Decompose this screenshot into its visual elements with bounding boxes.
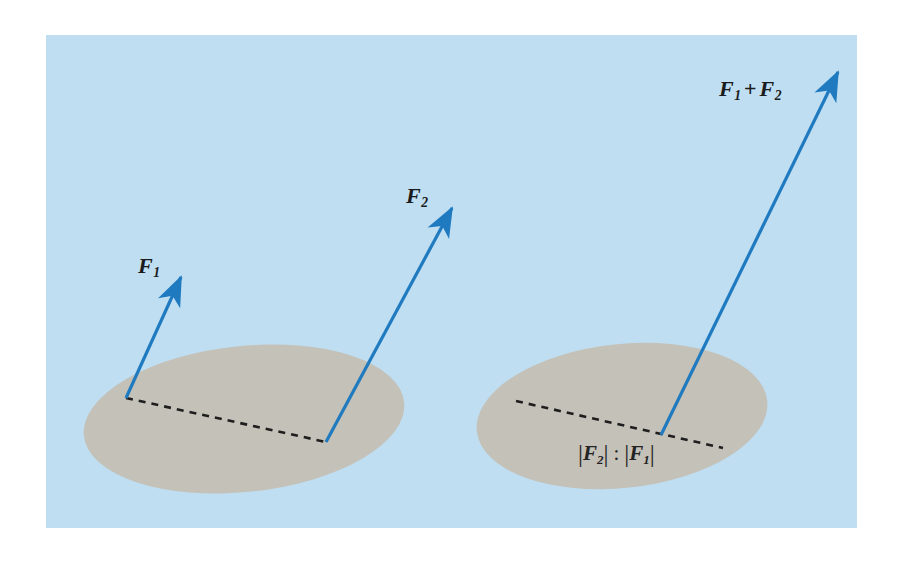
label-force-ratio: |F2|:|F1| [578,442,655,467]
label-sum-first-symbol: F [719,76,734,101]
left-rigid-body [76,330,411,509]
label-force-f2: F2 [406,185,428,210]
ratio-numerator-symbol: F [583,441,597,465]
ratio-denominator-symbol: F [629,441,643,465]
label-f1-subscript: 1 [153,265,160,280]
label-f1-symbol: F [138,253,153,278]
label-sum-operator: + [744,76,757,101]
label-sum-second-subscript: 2 [775,88,782,103]
ratio-separator: : [613,441,619,465]
label-resultant-force: F1+F2 [719,78,782,103]
ratio-close-bar-2: | [650,440,655,467]
right-rigid-body [469,329,774,503]
label-sum-second-symbol: F [760,76,775,101]
label-sum-first-subscript: 1 [734,88,741,103]
physics-figure: F1 F2 F1+F2 |F2|:|F1| [0,0,903,563]
label-f2-symbol: F [406,183,421,208]
ratio-close-bar-1: | [604,440,609,467]
label-force-f1: F1 [138,255,160,280]
left-body-shape [76,330,411,509]
right-body-shape [469,329,774,503]
label-f2-subscript: 2 [421,195,428,210]
